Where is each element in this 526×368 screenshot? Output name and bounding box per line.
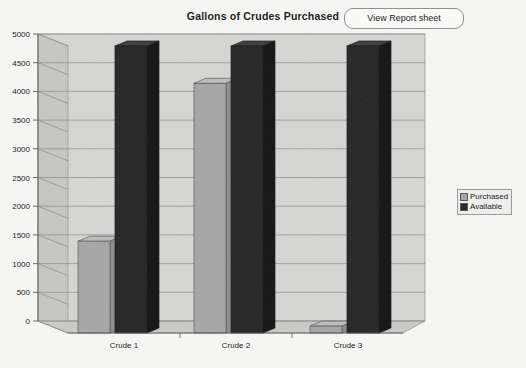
bar-side xyxy=(379,41,391,333)
y-tick-label-3000: 3000 xyxy=(12,145,30,154)
bar-front xyxy=(310,326,342,333)
legend-label-available: Available xyxy=(470,202,502,212)
bar-front xyxy=(115,46,147,333)
view-report-sheet-button[interactable]: View Report sheet xyxy=(344,8,464,29)
bar-front xyxy=(78,241,110,333)
legend-item-available[interactable]: Available xyxy=(460,202,508,212)
y-tick-label-2500: 2500 xyxy=(12,174,30,183)
y-tick-label-0: 0 xyxy=(26,317,31,326)
bar-crude2-available xyxy=(231,41,275,333)
x-tick-label-crude-2: Crude 2 xyxy=(222,341,251,350)
bar-crude3-available xyxy=(347,41,391,333)
y-tick-label-1500: 1500 xyxy=(12,231,30,240)
bar-crude1-available xyxy=(115,41,159,333)
chart-plot-area: 0 500 1000 1500 2000 2500 3000 3500 4000… xyxy=(0,28,526,368)
bar-front xyxy=(194,83,226,333)
y-axis-ticks xyxy=(33,34,38,321)
bar-side xyxy=(147,41,159,333)
x-tick-label-crude-3: Crude 3 xyxy=(334,341,363,350)
x-tick-label-crude-1: Crude 1 xyxy=(110,341,139,350)
y-tick-label-4000: 4000 xyxy=(12,87,30,96)
bar-front xyxy=(231,46,263,333)
legend-item-purchased[interactable]: Purchased xyxy=(460,192,508,202)
y-tick-label-3500: 3500 xyxy=(12,116,30,125)
chart-legend: Purchased Available xyxy=(457,189,512,215)
y-tick-label-2000: 2000 xyxy=(12,202,30,211)
y-tick-label-5000: 5000 xyxy=(12,30,30,39)
legend-label-purchased: Purchased xyxy=(470,192,508,202)
y-tick-label-500: 500 xyxy=(17,288,31,297)
y-tick-label-4500: 4500 xyxy=(12,59,30,68)
bar-front xyxy=(347,46,379,333)
legend-swatch-purchased xyxy=(460,193,468,201)
bar-side xyxy=(263,41,275,333)
y-tick-label-1000: 1000 xyxy=(12,260,30,269)
legend-swatch-available xyxy=(460,203,468,211)
bar-chart-3d: 0 500 1000 1500 2000 2500 3000 3500 4000… xyxy=(0,28,526,368)
